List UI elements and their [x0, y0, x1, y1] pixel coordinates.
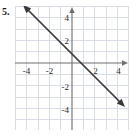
y-tick-label-4: 4	[65, 13, 70, 22]
coordinate-plane: -4 -2 2 4 4 2 -2 -4	[15, 6, 129, 130]
x-tick-label--4: -4	[23, 67, 31, 76]
problem-number-label: 5.	[2, 7, 10, 17]
x-tick-label-2: 2	[93, 67, 98, 76]
y-tick-label--4: -4	[62, 105, 70, 114]
x-tick-label--2: -2	[46, 67, 54, 76]
plotted-line	[15, 6, 129, 130]
y-tick-label-2: 2	[65, 36, 70, 45]
y-tick-label--2: -2	[62, 82, 70, 91]
figure-container: 5.	[0, 0, 133, 136]
x-tick-label-4: 4	[116, 67, 121, 76]
line-segment	[26, 8, 122, 104]
